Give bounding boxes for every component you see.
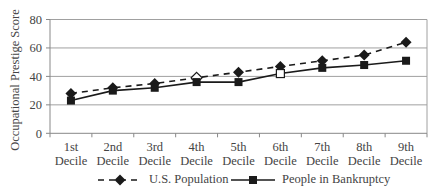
x-tick-label: Decile (222, 154, 255, 168)
legend-item-us-population: U.S. Population (97, 172, 229, 187)
x-tick-label: 3rd (146, 140, 163, 154)
square-marker (151, 84, 159, 92)
y-axis-label: Occupational Prestige Score (8, 9, 23, 151)
x-tick-label: 7th (314, 140, 331, 154)
x-tick-label: Decile (348, 154, 381, 168)
y-axis-ticks: 020406080 (30, 13, 51, 141)
x-tick-label: Decile (390, 154, 423, 168)
square-marker (360, 61, 368, 69)
x-tick-label: Decile (180, 154, 213, 168)
line-chart: 020406080 1stDecile2ndDecile3rdDecile4th… (0, 0, 437, 170)
x-tick-label: Decile (264, 154, 297, 168)
x-tick-label: 2nd (103, 140, 123, 154)
x-tick-label: 1st (64, 140, 79, 154)
x-tick-label: Decile (55, 154, 88, 168)
square-marker (276, 70, 284, 78)
x-tick-label: 6th (272, 140, 289, 154)
y-tick-label: 80 (30, 13, 43, 27)
dashed-diamond-line-icon (97, 174, 143, 186)
y-tick-label: 40 (30, 70, 43, 84)
y-tick-label: 60 (30, 41, 43, 55)
square-marker (67, 97, 75, 105)
x-axis: 1stDecile2ndDecile3rdDecile4thDecile5thD… (50, 133, 427, 168)
legend-label: People in Bankruptcy (282, 172, 390, 187)
x-tick-label: Decile (138, 154, 171, 168)
x-tick-label: 8th (356, 140, 373, 154)
x-tick-label: 5th (231, 140, 248, 154)
y-tick-label: 20 (30, 98, 43, 112)
data-series (65, 37, 411, 105)
legend-item-people-in-bankruptcy: People in Bankruptcy (230, 172, 390, 187)
solid-square-line-icon (230, 174, 276, 186)
diamond-marker (401, 37, 412, 48)
square-marker (109, 87, 117, 95)
x-tick-label: 9th (398, 140, 415, 154)
square-marker (193, 78, 201, 86)
legend-label: U.S. Population (149, 172, 229, 187)
square-marker (402, 57, 410, 65)
x-tick-label: Decile (97, 154, 130, 168)
legend: U.S. Population People in Bankruptcy (0, 172, 437, 190)
square-marker (235, 78, 243, 86)
x-tick-label: Decile (306, 154, 339, 168)
square-marker (318, 64, 326, 72)
x-tick-label: 4th (189, 140, 206, 154)
diamond-marker (359, 50, 370, 61)
y-tick-label: 0 (36, 127, 42, 141)
